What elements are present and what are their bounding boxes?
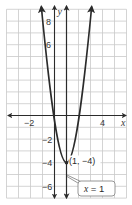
y-tick-label: −6: [42, 182, 52, 192]
callout-label: x = 1: [83, 183, 104, 194]
x-tick-label: −2: [24, 118, 34, 128]
x-tick-label: 4: [100, 118, 105, 128]
y-axis-label: y: [57, 6, 63, 17]
x-axis-label: x: [120, 117, 126, 128]
y-tick-label: −4: [42, 158, 52, 168]
y-tick-label: −2: [42, 135, 52, 145]
vertex-label: (1, −4): [69, 156, 95, 166]
callout-value: = 1: [88, 183, 104, 194]
y-tick-label: 6: [46, 40, 51, 50]
vertex-point: [65, 161, 69, 165]
coordinate-graph: y x −2 4 8 6 −2 −4 −6 (1, −4) x = 1: [0, 0, 132, 205]
y-tick-label: 8: [46, 17, 51, 27]
